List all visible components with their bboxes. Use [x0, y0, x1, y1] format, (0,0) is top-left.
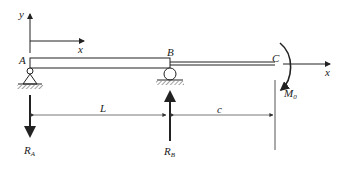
beam-diagram: y x A B C x M0 L c RA RB: [0, 0, 344, 179]
moment-arc: [280, 43, 291, 90]
pin-support-a: [17, 68, 43, 89]
reaction-a-label: RA: [24, 145, 35, 158]
moment-subscript: 0: [293, 93, 297, 101]
roller-support-b: [156, 68, 184, 85]
span-dimension-label: L: [100, 103, 106, 114]
beam-overhang: [170, 62, 275, 65]
x-axis-label: x: [78, 44, 83, 55]
moment-label: M0: [284, 88, 297, 101]
reaction-a-subscript: A: [31, 150, 35, 158]
moment-symbol: M: [284, 87, 293, 99]
point-a-label: A: [19, 55, 26, 66]
point-b-label: B: [167, 47, 174, 58]
overhang-dimension-label: c: [217, 104, 222, 115]
y-axis-label: y: [19, 9, 24, 20]
reaction-b-symbol: R: [164, 145, 171, 157]
reaction-a-symbol: R: [24, 144, 31, 156]
point-c-label: C: [272, 53, 279, 64]
origin-axes: [30, 14, 84, 53]
reaction-b-subscript: B: [171, 151, 175, 159]
end-x-axis-label: x: [325, 67, 330, 78]
beam-span: [30, 58, 170, 68]
reaction-b-label: RB: [164, 146, 175, 159]
dimension-lines: [34, 80, 275, 150]
